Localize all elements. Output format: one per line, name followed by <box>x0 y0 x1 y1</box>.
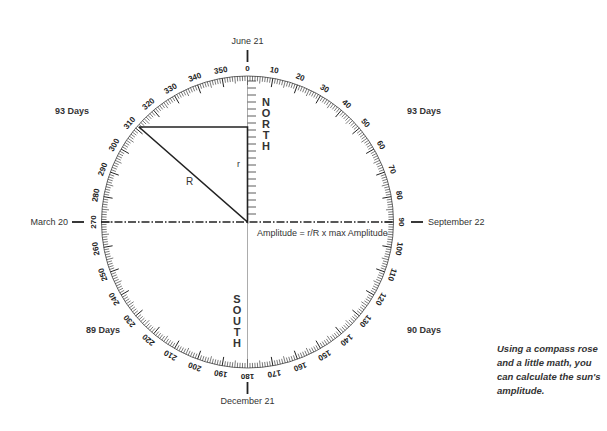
degree-label: 340 <box>187 71 203 84</box>
date-march: March 20 <box>30 217 68 227</box>
degree-label: 260 <box>90 241 101 256</box>
north-label: NORTH <box>262 96 271 152</box>
degree-label: 350 <box>213 65 228 76</box>
caption: Using a compass rose and a little math, … <box>497 342 607 398</box>
degree-label: 40 <box>340 98 353 111</box>
amplitude-formula: Amplitude = r/R x max Amplitude <box>257 228 388 238</box>
side-label: r <box>237 159 240 169</box>
degree-label: 30 <box>318 83 331 96</box>
degree-label: 150 <box>316 348 333 363</box>
north-scale-ticks <box>248 81 257 214</box>
degree-label: 0 <box>245 64 250 73</box>
degree-label: 240 <box>107 290 122 307</box>
degree-label: 100 <box>393 241 404 256</box>
hypotenuse-label: R <box>186 176 193 187</box>
degree-label: 210 <box>162 348 179 363</box>
days-bottom-left: 89 Days <box>86 325 120 335</box>
date-december: December 21 <box>220 396 274 406</box>
degree-label: 330 <box>162 81 179 96</box>
degree-label: 20 <box>294 72 306 84</box>
degree-label: 90 <box>397 218 406 227</box>
degree-label: 250 <box>96 266 109 282</box>
days-bottom-right: 90 Days <box>407 325 441 335</box>
degree-label: 80 <box>394 190 405 201</box>
days-top-left: 93 Days <box>55 106 89 116</box>
south-label: SOUTH <box>233 293 242 349</box>
svg-text:H: H <box>233 337 241 349</box>
degree-label: 190 <box>213 368 228 379</box>
degree-label: 160 <box>292 360 308 373</box>
degree-label: 300 <box>107 136 122 153</box>
degree-label: 170 <box>266 368 281 379</box>
date-june: June 21 <box>231 36 263 46</box>
degree-label: 200 <box>187 360 203 373</box>
degree-label: 50 <box>359 117 372 130</box>
degree-label: 70 <box>386 164 398 176</box>
date-september: September 22 <box>428 217 485 227</box>
degree-label: 110 <box>386 267 399 283</box>
degree-label: 120 <box>373 291 388 308</box>
days-top-right: 93 Days <box>407 106 441 116</box>
degree-label: 290 <box>96 161 109 177</box>
degree-label: 10 <box>269 65 280 76</box>
degree-label: 180 <box>240 372 254 381</box>
degree-label: 60 <box>375 139 388 152</box>
degree-label: 270 <box>89 215 98 229</box>
svg-text:H: H <box>262 140 270 152</box>
degree-label: 280 <box>90 187 101 202</box>
amplitude-triangle <box>139 127 248 222</box>
